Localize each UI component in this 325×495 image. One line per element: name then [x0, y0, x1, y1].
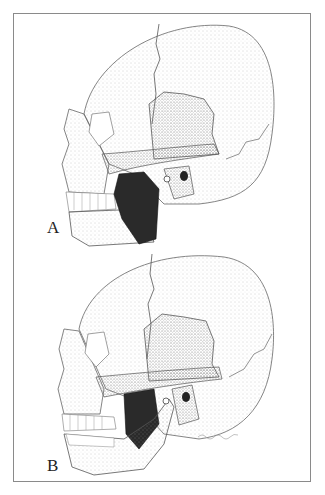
skull-illustration-b	[14, 249, 312, 483]
panel-b: B	[14, 249, 312, 483]
panel-label-a: A	[47, 218, 59, 238]
panel-a: A	[14, 14, 312, 249]
skull-illustration-a	[14, 14, 312, 249]
panel-label-b: B	[47, 456, 58, 476]
figure-frame: A	[13, 13, 311, 482]
